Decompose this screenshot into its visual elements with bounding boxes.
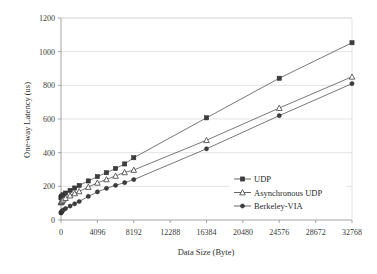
y-tick-label: 200 (43, 182, 55, 191)
data-point-marker (63, 206, 67, 210)
data-point-marker (104, 186, 108, 190)
latency-line-chart: 020040060080010001200 040968192122881638… (0, 0, 377, 274)
x-tick-label: 0 (59, 228, 63, 237)
y-tick-label: 600 (43, 115, 55, 124)
x-tick-label: 12288 (160, 228, 180, 237)
y-tick-label: 400 (43, 149, 55, 158)
x-tick-label: 24576 (269, 228, 289, 237)
data-point-marker (77, 183, 81, 187)
x-tick-label: 16384 (197, 228, 217, 237)
x-tick-label: 20480 (233, 228, 253, 237)
data-point-marker (277, 114, 281, 118)
y-tick-label: 1000 (39, 48, 55, 57)
data-point-marker (350, 41, 354, 45)
x-tick-label: 4096 (89, 228, 105, 237)
legend-label: Berkeley-VIA (254, 201, 303, 211)
x-tick-label: 8192 (126, 228, 142, 237)
data-point-marker (123, 181, 127, 185)
data-point-marker (113, 183, 117, 187)
data-point-marker (204, 116, 208, 120)
data-point-marker (73, 186, 77, 190)
x-tick-label: 28672 (306, 228, 326, 237)
data-point-marker (104, 171, 108, 175)
y-tick-label: 1200 (39, 14, 55, 23)
y-axis-title: One-way Latency (us) (22, 82, 32, 158)
data-point-marker (68, 188, 72, 192)
data-point-marker (113, 166, 117, 170)
data-point-marker (95, 174, 99, 178)
data-point-marker (95, 190, 99, 194)
legend-label: Asynchronous UDP (254, 188, 323, 198)
data-point-marker (204, 147, 208, 151)
chart-legend: UDPAsynchronous UDPBerkeley-VIA (229, 170, 347, 213)
data-point-marker (277, 76, 281, 80)
data-point-marker (68, 204, 72, 208)
chart-page: 020040060080010001200 040968192122881638… (0, 0, 377, 274)
data-point-marker (132, 178, 136, 182)
data-point-marker (240, 177, 244, 181)
y-tick-label: 0 (51, 216, 55, 225)
data-point-marker (132, 156, 136, 160)
data-point-marker (350, 82, 354, 86)
x-tick-label: 32768 (342, 228, 362, 237)
legend-label: UDP (254, 174, 271, 184)
y-tick-label: 800 (43, 81, 55, 90)
data-point-marker (73, 202, 77, 206)
data-point-marker (123, 162, 127, 166)
data-point-marker (77, 199, 81, 203)
x-axis-title: Data Size (Byte) (178, 247, 235, 257)
data-point-marker (86, 179, 90, 183)
data-point-marker (240, 204, 244, 208)
data-point-marker (86, 194, 90, 198)
